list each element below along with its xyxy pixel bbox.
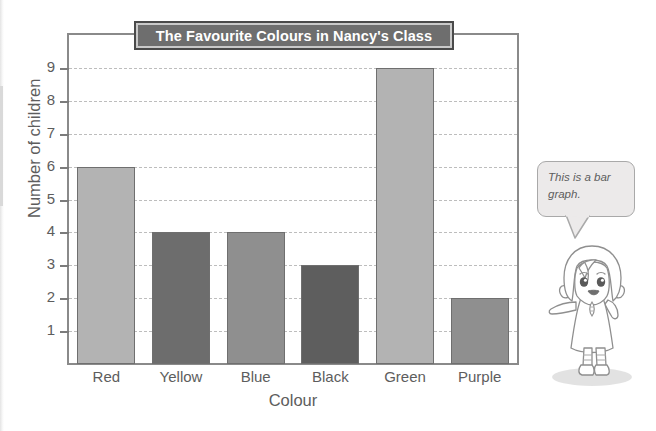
y-axis-tick: [60, 331, 69, 333]
x-axis-label-blue: Blue: [218, 368, 293, 385]
x-axis-label-red: Red: [69, 368, 144, 385]
y-axis-tick: [60, 68, 69, 70]
x-axis-label-purple: Purple: [442, 368, 517, 385]
bar-yellow: [152, 232, 210, 364]
bar-blue: [227, 232, 285, 364]
x-axis-label-yellow: Yellow: [144, 368, 219, 385]
bar-green: [376, 68, 434, 364]
y-axis-tick: [60, 134, 69, 136]
page-scan-edge: [0, 0, 4, 431]
speech-bubble: This is a bar graph.: [537, 161, 635, 217]
bar-black: [301, 265, 359, 364]
y-axis-tick: [60, 101, 69, 103]
speech-bubble-line-2: graph.: [548, 186, 625, 203]
x-axis-labels: RedYellowBlueBlackGreenPurple: [69, 368, 517, 390]
y-axis-title: Number of children: [26, 100, 50, 340]
y-axis-title-text: Number of children: [25, 79, 44, 218]
y-axis-tick: [60, 265, 69, 267]
chart-bars: [69, 35, 517, 364]
bar-purple: [451, 298, 509, 364]
y-axis-tick: [60, 232, 69, 234]
x-axis-label-green: Green: [368, 368, 443, 385]
y-axis-tick: [60, 167, 69, 169]
girl-character-illustration: [536, 238, 648, 390]
y-axis-tick-label: 9: [31, 58, 55, 75]
x-axis-label-black: Black: [293, 368, 368, 385]
chart-title-text: The Favourite Colours in Nancy's Class: [156, 28, 432, 44]
y-axis-tick: [60, 200, 69, 202]
chart-title-banner: The Favourite Colours in Nancy's Class: [134, 21, 454, 50]
speech-bubble-tail: [565, 215, 591, 239]
y-axis-tick: [60, 298, 69, 300]
page-scan-edge-mark: [0, 86, 3, 206]
bar-red: [77, 167, 135, 364]
x-axis-title: Colour: [69, 391, 517, 410]
speech-bubble-line-1: This is a bar: [548, 169, 625, 186]
